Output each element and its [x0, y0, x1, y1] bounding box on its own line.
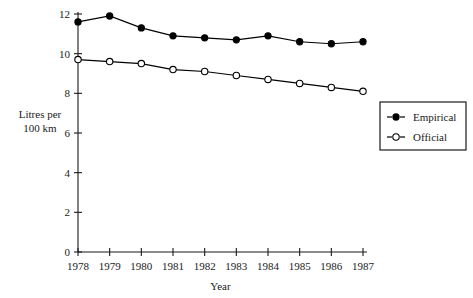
x-tick-label: 1983 [225, 260, 248, 272]
x-tick-label: 1979 [99, 260, 122, 272]
data-point [233, 37, 239, 43]
data-point [233, 72, 239, 78]
x-tick-label: 1982 [194, 260, 216, 272]
chart-container: 0246810121978197919801981198219831984198… [0, 0, 473, 298]
y-axis-title-line: 100 km [23, 122, 57, 134]
data-point [297, 39, 303, 45]
data-point [107, 13, 113, 19]
series-line [78, 16, 363, 44]
series-official [75, 56, 366, 94]
legend-label: Empirical [413, 111, 456, 123]
line-chart: 0246810121978197919801981198219831984198… [0, 0, 473, 298]
data-point [170, 66, 176, 72]
open-circle-icon [393, 134, 399, 140]
y-tick-label: 6 [65, 127, 71, 139]
x-axis-title: Year [210, 280, 231, 292]
x-tick-label: 1986 [320, 260, 343, 272]
y-tick-label: 4 [65, 167, 71, 179]
data-point [360, 88, 366, 94]
y-axis-title-line: Litres per [19, 108, 62, 120]
data-point [328, 84, 334, 90]
data-point [75, 19, 81, 25]
data-point [106, 58, 112, 64]
data-point [328, 41, 334, 47]
x-tick-label: 1987 [352, 260, 375, 272]
x-tick-label: 1980 [130, 260, 153, 272]
legend: EmpiricalOfficial [380, 102, 466, 150]
y-tick-label: 12 [59, 8, 70, 20]
series-line [78, 60, 363, 92]
x-tick-label: 1978 [67, 260, 90, 272]
x-tick-label: 1981 [162, 260, 184, 272]
data-point [265, 33, 271, 39]
y-tick-label: 2 [65, 206, 71, 218]
data-point [265, 76, 271, 82]
data-point [201, 68, 207, 74]
data-point [360, 39, 366, 45]
y-tick-label: 8 [65, 87, 71, 99]
filled-circle-icon [393, 114, 399, 120]
x-tick-label: 1984 [257, 260, 280, 272]
legend-label: Official [413, 131, 447, 143]
data-point [138, 25, 144, 31]
series-empirical [75, 13, 366, 47]
y-tick-label: 10 [59, 48, 71, 60]
data-point [296, 80, 302, 86]
data-point [75, 56, 81, 62]
data-point [170, 33, 176, 39]
data-point [202, 35, 208, 41]
data-point [138, 60, 144, 66]
x-tick-label: 1985 [289, 260, 312, 272]
y-tick-label: 0 [65, 246, 71, 258]
